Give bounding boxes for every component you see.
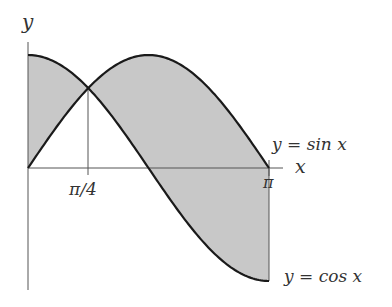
diagram: y x π/4 π y = sin x y = cos x (0, 0, 392, 307)
tick-label-pi-over-4: π/4 (68, 179, 97, 199)
cos-curve-label: y = cos x (283, 266, 363, 286)
y-axis-label: y (21, 10, 34, 34)
x-axis-label: x (295, 155, 306, 177)
sin-curve-label: y = sin x (271, 134, 347, 154)
tick-label-pi: π (262, 173, 274, 192)
